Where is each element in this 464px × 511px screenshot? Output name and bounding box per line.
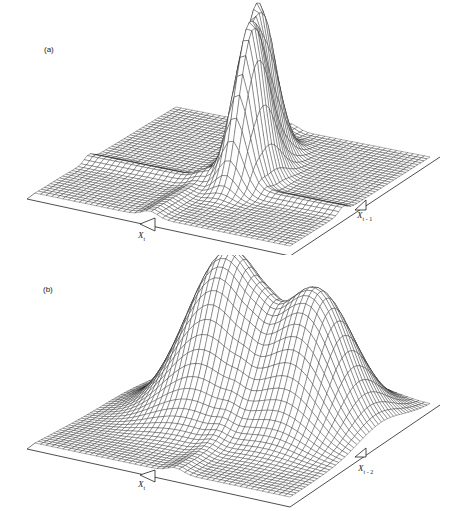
surface-plot-a (0, 0, 464, 255)
panel-a: (a) Xt Xt - 1 (0, 0, 464, 255)
axis-label-xt1-a: Xt - 1 (357, 210, 372, 222)
axis-label-xt2-b: Xt - 2 (358, 463, 373, 475)
panel-label-b: (b) (43, 285, 53, 294)
surface-plot-b (0, 255, 464, 511)
axis-label-xt-a: Xt (138, 230, 145, 242)
axis-marker-icon (355, 448, 366, 457)
panel-b: (b) Xt Xt - 2 (0, 255, 464, 511)
axis-label-xt-b: Xt (138, 479, 145, 491)
wireframe-grid (35, 255, 430, 497)
panel-label-a: (a) (44, 45, 54, 54)
